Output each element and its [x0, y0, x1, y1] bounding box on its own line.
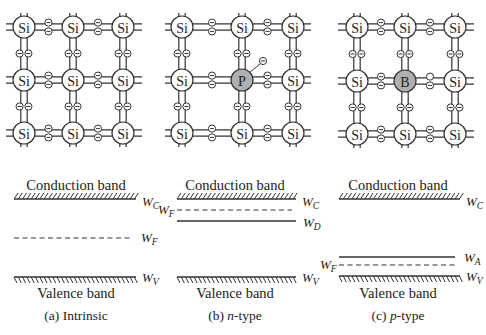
si-atom: Si	[112, 69, 134, 91]
hatch	[365, 276, 368, 282]
atom-symbol: Si	[351, 128, 363, 143]
hatch	[442, 276, 445, 282]
hatch	[203, 193, 207, 199]
hatch	[126, 193, 130, 199]
lattice-b: SiSiSiSiPSiSiSiSi	[165, 13, 311, 147]
hatch	[352, 276, 355, 282]
atom-symbol: Si	[176, 21, 188, 36]
lattice-c: SiSiSiSiBSiSiSiSi	[338, 13, 474, 148]
crystal-lattices: SiSiSiSiSiSiSiSiSiSiSiSiSiPSiSiSiSiSiSiS…	[6, 13, 474, 148]
electron	[264, 72, 271, 79]
hatch	[216, 277, 219, 283]
si-atom: Si	[62, 16, 84, 38]
si-atom: Si	[282, 122, 304, 144]
hatch	[343, 193, 347, 199]
level-label-wc: WC	[466, 194, 484, 211]
electron	[45, 72, 52, 79]
hatch	[438, 276, 441, 282]
hatch	[237, 277, 240, 283]
hatch	[57, 193, 61, 199]
hole-circle	[426, 73, 433, 80]
hatch	[254, 277, 257, 283]
hatch	[211, 277, 214, 283]
electron	[74, 103, 81, 110]
electron	[406, 104, 413, 111]
electron	[234, 103, 241, 110]
electron	[208, 19, 215, 26]
hatch	[348, 193, 352, 199]
level-label-wf: WF	[141, 230, 158, 247]
electron	[264, 134, 271, 141]
atom-symbol: Si	[351, 75, 363, 90]
electron	[349, 50, 356, 57]
hatch	[434, 193, 438, 199]
electron	[94, 125, 101, 132]
hatch	[61, 277, 64, 283]
electron	[124, 50, 131, 57]
si-atom: Si	[13, 16, 35, 38]
hatch	[27, 193, 31, 199]
hatch	[293, 193, 297, 199]
hatch	[429, 193, 433, 199]
level-label-wd: WD	[303, 215, 321, 232]
electron	[377, 19, 384, 26]
conduction-band-label-b: Conduction band	[185, 177, 285, 193]
electron	[377, 73, 384, 80]
atom-symbol: Si	[176, 127, 188, 142]
hatch	[339, 193, 343, 199]
electron	[426, 82, 433, 89]
hatch	[361, 193, 365, 199]
electron	[259, 57, 266, 64]
electron	[426, 135, 433, 142]
si-atom: Si	[13, 122, 35, 144]
electron	[294, 50, 301, 57]
atom-symbol: Si	[287, 127, 299, 142]
hatch	[181, 277, 184, 283]
hatch	[259, 193, 263, 199]
hatch	[134, 193, 138, 199]
electron	[358, 50, 365, 57]
hatch	[44, 193, 48, 199]
hatch	[425, 193, 429, 199]
hatch	[100, 193, 104, 199]
atom-symbol: Si	[67, 74, 79, 89]
hatch	[53, 193, 57, 199]
hatch	[220, 193, 224, 199]
hatch	[40, 277, 43, 283]
atom-symbol: Si	[176, 74, 188, 89]
si-atom: Si	[282, 69, 304, 91]
hatch	[79, 193, 83, 199]
hatch	[36, 193, 40, 199]
valence-band-label-a: Valence band	[37, 285, 115, 301]
hatch	[194, 277, 197, 283]
hatch	[412, 193, 416, 199]
hatch	[14, 277, 17, 283]
electron	[243, 103, 250, 110]
hatch	[263, 193, 267, 199]
hatch	[404, 276, 407, 282]
hatch	[87, 193, 91, 199]
level-label-wa: WA	[464, 250, 481, 267]
hatch	[285, 193, 289, 199]
hatch	[113, 193, 117, 199]
hatch	[109, 193, 113, 199]
hatch	[14, 193, 18, 199]
hatch	[246, 193, 250, 199]
electron	[264, 19, 271, 26]
band-diagram-b: WCWVWFWD	[158, 193, 321, 287]
hatch	[229, 277, 232, 283]
hatch	[66, 193, 70, 199]
electron	[208, 72, 215, 79]
si-atom: Si	[231, 16, 253, 38]
hatch	[289, 277, 292, 283]
hatch	[109, 277, 112, 283]
hatch	[18, 277, 21, 283]
hatch	[104, 277, 107, 283]
hatch	[96, 193, 100, 199]
electron	[208, 81, 215, 88]
hatch	[220, 277, 223, 283]
level-label-wf: WF	[158, 202, 175, 219]
hatch	[74, 193, 78, 199]
electron	[45, 81, 52, 88]
hatch	[53, 277, 56, 283]
